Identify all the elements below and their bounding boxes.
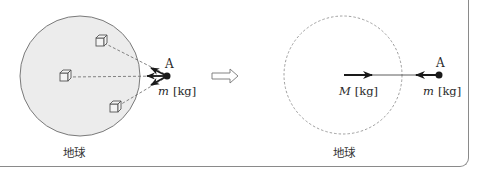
- point-a-label: A: [435, 56, 445, 70]
- point-a-dot: [436, 72, 443, 79]
- hollow-right-arrow-icon: [212, 69, 238, 83]
- point-a-label: A: [164, 57, 174, 71]
- left-panel: A m[kg] 地球: [20, 16, 196, 160]
- mass-m-label: m[kg]: [423, 84, 461, 98]
- earth-label: 地球: [63, 146, 86, 160]
- earth-solid-circle: [20, 16, 140, 136]
- mass-m-label: m[kg]: [158, 84, 196, 98]
- mass-cube-icon: [110, 101, 121, 112]
- point-a-dot: [164, 73, 171, 80]
- mass-M-label: M[kg]: [338, 84, 378, 98]
- mass-cube-icon: [60, 70, 71, 81]
- gravity-diagram: A m[kg] 地球 A m[kg] M[kg] 地球: [0, 0, 477, 174]
- right-panel: A m[kg] M[kg] 地球: [284, 16, 461, 160]
- mass-cube-icon: [96, 35, 107, 46]
- earth-label: 地球: [333, 146, 356, 160]
